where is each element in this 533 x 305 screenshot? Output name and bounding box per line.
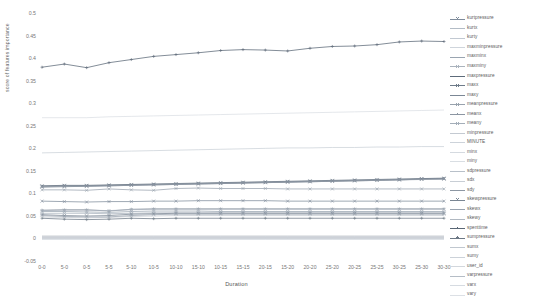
x-axis-tick: 0-5: [83, 265, 90, 270]
legend-swatch-icon: [450, 34, 465, 41]
legend-item[interactable]: maxy: [450, 90, 533, 100]
legend-item[interactable]: meany: [450, 119, 533, 129]
marker-plus-icon: [456, 227, 459, 230]
x-axis-label: Duration: [225, 281, 248, 287]
y-axis-tick: 0.3: [29, 101, 36, 106]
series-marker: [286, 207, 289, 210]
y-axis-tick: 0.5: [29, 11, 36, 16]
legend-label: MINUTE: [467, 140, 485, 145]
x-axis-tick: 20-15: [259, 265, 272, 270]
chart-root: score of features importance 0.50.450.40…: [0, 0, 533, 305]
y-axis-tick: 0: [33, 236, 36, 241]
legend-item[interactable]: sumx: [450, 242, 533, 252]
legend-item[interactable]: varx: [450, 280, 533, 290]
series-marker: [242, 217, 245, 220]
marker-x-icon: [456, 189, 459, 192]
legend-label: minx: [467, 150, 477, 155]
x-axis-tick: 15-15: [236, 265, 249, 270]
legend-label: kurtx: [467, 26, 477, 31]
legend-item[interactable]: maxminpressure: [450, 43, 533, 53]
legend-label: skewy: [467, 216, 480, 221]
legend-swatch-icon: [450, 129, 465, 136]
series-marker: [331, 45, 334, 48]
legend-item[interactable]: maxminy: [450, 62, 533, 72]
legend-label: maxx: [467, 83, 478, 88]
legend-swatch-icon: [450, 253, 465, 260]
series-marker: [420, 217, 423, 220]
series-marker: [309, 207, 312, 210]
series-marker: [242, 48, 245, 51]
y-axis-tick: -0.05: [24, 259, 36, 264]
series-marker: [130, 58, 133, 61]
legend-item[interactable]: varpressure: [450, 271, 533, 281]
legend-label: meanpressure: [467, 102, 498, 107]
legend-item[interactable]: miny: [450, 157, 533, 167]
legend-label: vary: [467, 292, 476, 297]
legend-label: sumpressure: [467, 235, 495, 240]
legend-label: sdx: [467, 178, 474, 183]
legend-item[interactable]: maxminx: [450, 52, 533, 62]
series-marker: [264, 217, 267, 220]
legend-item[interactable]: meanx: [450, 109, 533, 119]
marker-x-icon: [456, 17, 459, 20]
legend-item[interactable]: sdx: [450, 176, 533, 186]
legend-item[interactable]: maxx: [450, 81, 533, 91]
marker-x-icon: [456, 208, 459, 211]
series-line: [42, 110, 444, 118]
plot-area: [38, 14, 448, 262]
series-marker: [63, 218, 66, 221]
series-marker: [443, 207, 446, 210]
legend-label: sdy: [467, 188, 474, 193]
line-chart-svg: [38, 14, 448, 262]
series-marker: [264, 207, 267, 210]
marker-x-icon: [456, 198, 459, 201]
x-axis-tick: 10-15: [214, 265, 227, 270]
series-marker: [41, 217, 44, 220]
x-axis-tick: 5-5: [105, 265, 112, 270]
x-axis-tick: 20-25: [348, 265, 361, 270]
legend-label: user_id: [467, 264, 483, 269]
series-marker: [197, 217, 200, 220]
legend-item[interactable]: spenttime: [450, 223, 533, 233]
legend-item[interactable]: meanpressure: [450, 100, 533, 110]
legend-label: maxminy: [467, 64, 486, 69]
series-marker: [376, 43, 379, 46]
series-marker: [242, 207, 245, 210]
legend-swatch-icon: [450, 177, 465, 184]
legend-item[interactable]: sumy: [450, 252, 533, 262]
series-marker: [376, 217, 379, 220]
legend-item[interactable]: sdy: [450, 185, 533, 195]
legend-label: maxminx: [467, 54, 486, 59]
legend-label: minpressure: [467, 131, 493, 136]
legend-swatch-icon: [450, 15, 465, 22]
marker-plus-icon: [456, 236, 459, 239]
marker-x-icon: [456, 65, 459, 68]
marker-x-icon: [456, 122, 459, 125]
legend-item[interactable]: user_id: [450, 261, 533, 271]
y-axis-tick: 0.25: [26, 124, 36, 129]
legend-swatch-icon: [450, 291, 465, 298]
legend-swatch-icon: [450, 244, 465, 251]
legend-item[interactable]: skewx: [450, 204, 533, 214]
legend-item[interactable]: skewpressure: [450, 195, 533, 205]
legend-item[interactable]: minx: [450, 147, 533, 157]
legend-item[interactable]: skewy: [450, 214, 533, 224]
y-axis-tick-labels: 0.50.450.40.350.30.250.20.150.10.050-0.0…: [0, 0, 36, 305]
legend-item[interactable]: maxpressure: [450, 71, 533, 81]
legend-item[interactable]: minpressure: [450, 128, 533, 138]
y-axis-tick: 0.45: [26, 34, 36, 39]
legend-swatch-icon: [450, 25, 465, 32]
legend-item[interactable]: kurty: [450, 33, 533, 43]
legend-item[interactable]: vary: [450, 290, 533, 300]
legend-swatch-icon: [450, 206, 465, 213]
legend-label: skewpressure: [467, 197, 497, 202]
legend-swatch-icon: [450, 263, 465, 270]
legend-item[interactable]: kurtx: [450, 24, 533, 34]
series-marker: [353, 217, 356, 220]
legend-item[interactable]: MINUTE: [450, 138, 533, 148]
legend-label: kurty: [467, 35, 477, 40]
legend-item[interactable]: sdpressure: [450, 166, 533, 176]
legend-item[interactable]: kurtpressure: [450, 14, 533, 24]
legend-swatch-icon: [450, 282, 465, 289]
legend-item[interactable]: sumpressure: [450, 233, 533, 243]
